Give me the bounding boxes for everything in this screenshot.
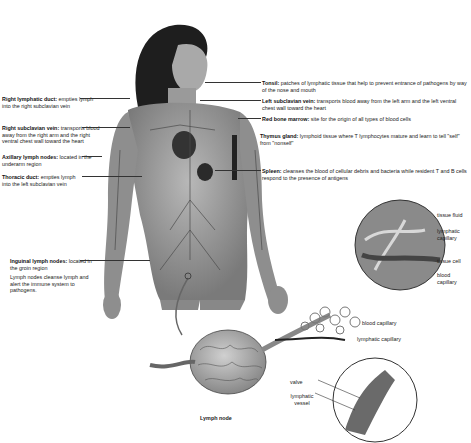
label-spleen: Spleen: cleanses the blood of cellular d… (262, 168, 467, 181)
label-red-bone-marrow: Red bone marrow: site for the origin of … (262, 116, 467, 123)
label-blood-capillary: blood capillary (362, 320, 422, 327)
leader-line (205, 82, 261, 83)
label-thymus-gland: Thymus gland: lymphoid tissue where T ly… (260, 133, 465, 146)
label-blood-capillary-inset: blood capillary (437, 272, 471, 285)
label-left-subclavian-vein: Left subclavian vein: transports blood a… (262, 98, 467, 111)
leader-line (80, 98, 130, 99)
label-thoracic-duct: Thoracic duct: empties lymph into the le… (2, 174, 80, 187)
leader-line (82, 176, 142, 177)
label-tonsil: Tonsil: patches of lymphatic tissue that… (262, 80, 467, 93)
label-lymph-nodes-note: Lymph nodes cleanse lymph and alert the … (10, 274, 100, 294)
leader-line (82, 156, 102, 157)
label-lymphatic-capillary: lymphatic capillary (357, 336, 427, 343)
label-valve: valve (290, 379, 320, 386)
leader-line (82, 127, 130, 128)
lymphatic-system-illustration (0, 0, 471, 443)
label-tissue-cell: tissue cell (437, 258, 471, 265)
leader-line (215, 170, 261, 171)
leader-line (80, 260, 150, 261)
label-lymph-node: Lymph node (200, 415, 250, 422)
label-lymphatic-capillary-inset: lymphatic capillary (437, 228, 471, 241)
label-lymphatic-vessel: lymphatic vessel (288, 393, 316, 406)
leader-line (200, 100, 261, 101)
label-tissue-fluid: tissue fluid (437, 212, 471, 219)
leader-line (238, 118, 261, 119)
